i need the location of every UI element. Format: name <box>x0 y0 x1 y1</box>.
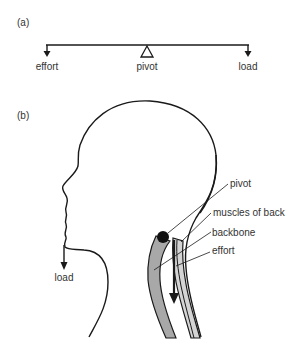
backbone-label: backbone <box>212 227 256 238</box>
backbone-shape <box>148 236 176 338</box>
diagram-canvas: (a) effort pivot load (b) <box>0 0 291 351</box>
pivot-triangle-icon <box>141 46 153 57</box>
pivot-dot-icon <box>157 231 169 243</box>
panel-b-label: (b) <box>17 110 29 121</box>
panel-b: (b) load pivot muscles of back <box>17 101 286 338</box>
lever-pivot-label: pivot <box>136 61 157 72</box>
lever-effort-label: effort <box>36 61 59 72</box>
effort-arrow-icon <box>44 45 51 57</box>
load-label-b: load <box>55 272 74 283</box>
muscles-label: muscles of back <box>213 207 286 218</box>
pivot-label-b: pivot <box>230 178 251 189</box>
load-arrow-b-icon <box>61 245 68 270</box>
lever-load-label: load <box>239 61 258 72</box>
head-outline <box>63 101 217 337</box>
load-arrow-icon <box>245 45 252 57</box>
panel-a-label: (a) <box>17 17 29 28</box>
panel-a: (a) effort pivot load <box>17 17 257 72</box>
effort-label-b: effort <box>212 245 235 256</box>
lever-diagram: (a) effort pivot load (b) <box>0 0 291 351</box>
